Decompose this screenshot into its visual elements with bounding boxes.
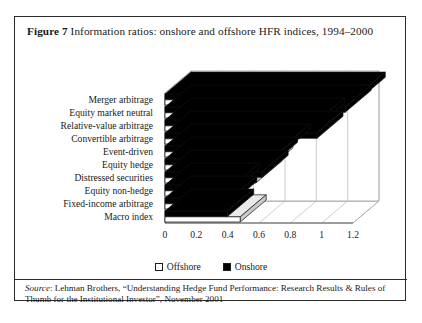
source-divider bbox=[15, 279, 407, 280]
y-axis-label: Event-driven bbox=[103, 145, 153, 159]
figure-label: Figure bbox=[27, 25, 59, 37]
y-axis-category-labels: Merger arbitrageEquity market neutralRel… bbox=[19, 45, 153, 231]
y-axis-label: Distressed securities bbox=[74, 171, 153, 185]
x-axis-tick-label: 0.4 bbox=[215, 229, 241, 240]
legend-label: Onshore bbox=[235, 261, 268, 272]
legend-label: Offshore bbox=[167, 261, 201, 272]
figure-card: Figure 7 Information ratios: onshore and… bbox=[14, 16, 406, 301]
y-axis-label: Convertible arbitrage bbox=[71, 132, 153, 146]
figure-title: Figure 7 Information ratios: onshore and… bbox=[27, 25, 397, 37]
x-axis-tick-label: 1.2 bbox=[340, 229, 366, 240]
x-axis-tick-label: 0.8 bbox=[277, 229, 303, 240]
chart-svg bbox=[153, 45, 405, 255]
chart-legend: OffshoreOnshore bbox=[15, 261, 407, 277]
chart-canvas bbox=[153, 45, 405, 255]
y-axis-label: Fixed-income arbitrage bbox=[63, 197, 153, 211]
y-axis-label: Equity hedge bbox=[102, 158, 153, 172]
y-axis-label: Merger arbitrage bbox=[88, 93, 153, 107]
legend-item[interactable]: Offshore bbox=[155, 261, 201, 272]
chart-plot-area: Merger arbitrageEquity market neutralRel… bbox=[15, 45, 407, 255]
source-prefix: Source bbox=[25, 283, 50, 293]
y-axis-label: Equity non-hedge bbox=[85, 184, 153, 198]
y-axis-label: Equity market neutral bbox=[69, 106, 153, 120]
legend-item[interactable]: Onshore bbox=[223, 261, 268, 272]
source-text: : Lehman Brothers, “Understanding Hedge … bbox=[25, 283, 385, 304]
x-axis-tick-label: 1 bbox=[309, 229, 335, 240]
source-note: Source: Lehman Brothers, “Understanding … bbox=[25, 283, 399, 306]
figure-number: 7 bbox=[59, 25, 68, 37]
x-axis-tick-label: 0.2 bbox=[183, 229, 209, 240]
x-axis-tick-label: 0 bbox=[152, 229, 178, 240]
y-axis-label: Macro index bbox=[104, 210, 153, 224]
legend-swatch-offshore bbox=[155, 263, 163, 271]
y-axis-label: Relative-value arbitrage bbox=[61, 119, 153, 133]
legend-swatch-onshore bbox=[223, 263, 231, 271]
figure-title-text: Information ratios: onshore and offshore… bbox=[68, 25, 373, 37]
x-axis-tick-label: 0.6 bbox=[246, 229, 272, 240]
